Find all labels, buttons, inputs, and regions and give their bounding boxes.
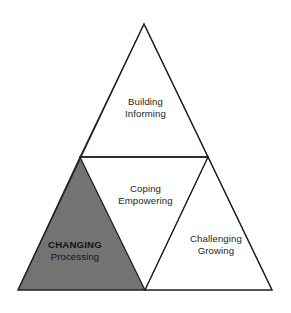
segment-label-changing-processing: CHANGING Processing xyxy=(19,239,131,264)
segment-label-secondary: Growing xyxy=(160,245,272,257)
segment-label-secondary: Informing xyxy=(0,108,291,120)
triangle-diagram: Building Informing Coping Empowering CHA… xyxy=(0,0,291,313)
segment-shape-top-building xyxy=(80,24,208,157)
segment-label-primary: Challenging xyxy=(160,233,272,245)
segment-label-secondary: Empowering xyxy=(0,195,291,207)
segment-label-challenging-growing: Challenging Growing xyxy=(160,233,272,258)
segment-label-primary: CHANGING xyxy=(19,239,131,251)
triangle-diagram-graphic xyxy=(0,0,291,313)
segment-label-coping-empowering: Coping Empowering xyxy=(0,183,291,208)
segment-label-building-informing: Building Informing xyxy=(0,96,291,121)
segment-label-primary: Building xyxy=(0,96,291,108)
segment-label-primary: Coping xyxy=(0,183,291,195)
segment-label-secondary: Processing xyxy=(19,251,131,263)
